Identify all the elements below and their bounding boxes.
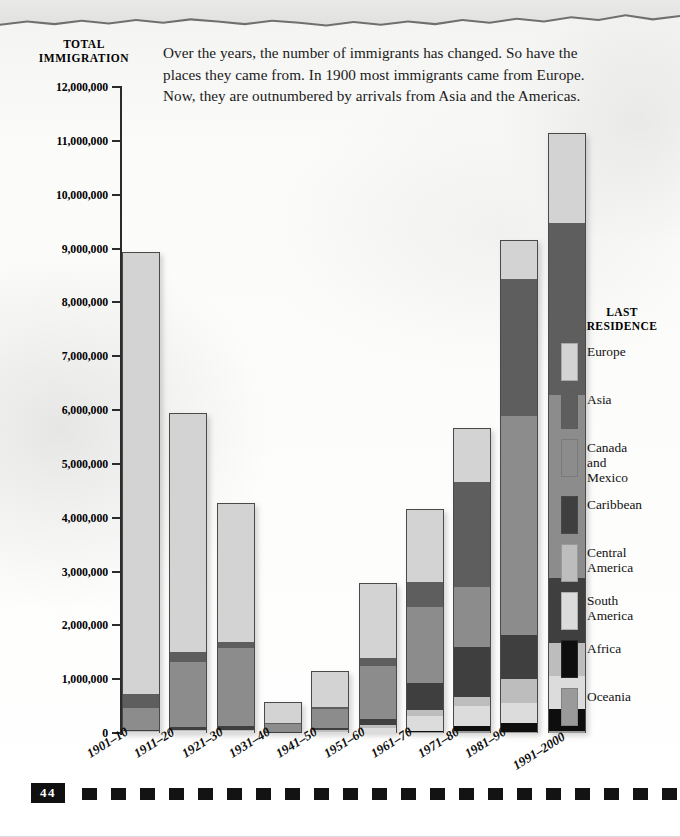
bar-1971-80 — [453, 428, 491, 733]
bar-segment-europe — [549, 134, 585, 223]
bar-segment-canada-and-mexico — [312, 709, 348, 728]
y-tick-mark — [112, 194, 122, 196]
footer-dash — [517, 788, 532, 800]
bar-segment-central-america — [501, 679, 537, 703]
bar-segment-canada-and-mexico — [407, 607, 443, 683]
y-tick-mark — [112, 140, 122, 142]
legend-label: CentralAmerica — [587, 544, 633, 575]
legend-item-central-america[interactable]: CentralAmerica — [561, 544, 680, 582]
legend-item-south-america[interactable]: SouthAmerica — [561, 592, 680, 630]
legend-swatch — [561, 688, 578, 726]
y-tick-label: 10,000,000 — [0, 187, 108, 202]
bar-segment-caribbean — [407, 683, 443, 710]
bar-segment-europe — [407, 510, 443, 582]
bar-segment-europe — [218, 504, 254, 642]
y-tick-label: 1,000,000 — [0, 672, 108, 687]
legend-title-line-1: LAST — [567, 306, 677, 320]
footer-dash — [285, 788, 300, 800]
footer-dash — [633, 788, 648, 800]
footer-dash — [430, 788, 445, 800]
bar-segment-asia — [501, 279, 537, 416]
y-tick-label: 4,000,000 — [0, 510, 108, 525]
y-tick-mark — [112, 571, 122, 573]
legend-label: Africa — [587, 640, 621, 656]
y-tick-mark — [112, 624, 122, 626]
footer-dash — [546, 788, 561, 800]
footer-dash — [401, 788, 416, 800]
legend-swatch — [561, 391, 578, 429]
bar-1901-10 — [122, 252, 160, 733]
legend-label: Europe — [587, 343, 626, 359]
chart-legend: LAST RESIDENCE EuropeAsiaCanadaandMexico… — [561, 306, 680, 726]
footer-dash — [227, 788, 242, 800]
bar-segment-canada-and-mexico — [123, 708, 159, 730]
bar-segment-canada-and-mexico — [501, 416, 537, 635]
legend-item-africa[interactable]: Africa — [561, 640, 680, 678]
footer-dash — [343, 788, 358, 800]
footer-dash — [459, 788, 474, 800]
footer-dash — [111, 788, 126, 800]
bar-segment-canada-and-mexico — [218, 648, 254, 726]
bar-segment-europe — [501, 241, 537, 279]
y-tick-label: 5,000,000 — [0, 456, 108, 471]
footer-dash — [82, 788, 97, 800]
legend-label: Asia — [587, 391, 612, 407]
bar-segment-europe — [265, 703, 301, 724]
legend-items: EuropeAsiaCanadaandMexicoCaribbeanCentra… — [561, 343, 680, 726]
legend-swatch — [561, 592, 578, 630]
y-tick-label: 8,000,000 — [0, 295, 108, 310]
bar-segment-europe — [360, 584, 396, 658]
y-tick-label: 7,000,000 — [0, 349, 108, 364]
y-tick-mark — [112, 678, 122, 680]
bar-1981-90 — [500, 240, 538, 733]
y-tick-label: 11,000,000 — [0, 133, 108, 148]
footer-dash — [604, 788, 619, 800]
legend-item-oceania[interactable]: Oceania — [561, 688, 680, 726]
footer-dash — [198, 788, 213, 800]
footer-dash — [575, 788, 590, 800]
bar-1921-30 — [217, 503, 255, 733]
bar-segment-asia — [123, 694, 159, 707]
legend-item-asia[interactable]: Asia — [561, 391, 680, 429]
legend-swatch — [561, 496, 578, 534]
footer-dash — [314, 788, 329, 800]
x-axis-label: 1991–2000 — [510, 729, 568, 774]
legend-swatch — [561, 439, 578, 477]
legend-label: Caribbean — [587, 496, 642, 512]
bar-1941-50 — [311, 671, 349, 733]
legend-item-canada-and-mexico[interactable]: CanadaandMexico — [561, 439, 680, 486]
bar-segment-south-america — [407, 716, 443, 731]
y-tick-label: 0 — [0, 726, 108, 741]
bar-segment-caribbean — [501, 635, 537, 679]
bar-segment-europe — [170, 414, 206, 652]
legend-title: LAST RESIDENCE — [567, 306, 677, 333]
footer-dash — [488, 788, 503, 800]
bar-1931-40 — [264, 702, 302, 733]
bar-segment-asia — [170, 652, 206, 662]
y-tick-label: 3,000,000 — [0, 564, 108, 579]
footer-dash — [169, 788, 184, 800]
legend-swatch — [561, 343, 578, 381]
legend-label: CanadaandMexico — [587, 439, 628, 486]
y-tick-mark — [112, 355, 122, 357]
page-number: 44 — [31, 783, 65, 803]
bar-segment-caribbean — [360, 719, 396, 726]
page-background: Over the years, the number of immigrants… — [0, 0, 680, 837]
y-tick-mark — [112, 517, 122, 519]
legend-item-caribbean[interactable]: Caribbean — [561, 496, 680, 534]
legend-item-europe[interactable]: Europe — [561, 343, 680, 381]
y-tick-mark — [112, 463, 122, 465]
bar-segment-europe — [454, 429, 490, 482]
bar-segment-europe — [312, 672, 348, 707]
bar-segment-south-america — [454, 706, 490, 726]
footer-dash — [140, 788, 155, 800]
y-tick-label: 12,000,000 — [0, 80, 108, 95]
y-tick-mark — [112, 409, 122, 411]
legend-swatch — [561, 544, 578, 582]
bar-segment-canada-and-mexico — [360, 666, 396, 719]
footer-dash — [372, 788, 387, 800]
bar-1951-60 — [359, 583, 397, 733]
y-tick-label: 9,000,000 — [0, 241, 108, 256]
y-tick-mark — [112, 86, 122, 88]
dashed-footer-rule — [82, 788, 680, 800]
